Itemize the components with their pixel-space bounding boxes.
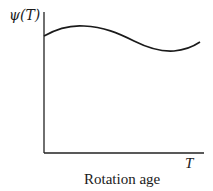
chart-canvas [0,0,213,191]
y-axis-label: ψ(T) [9,7,40,23]
x-axis-label: Rotation age [84,171,160,188]
psi-curve [44,26,200,51]
x-axis-symbol: T [185,155,193,172]
